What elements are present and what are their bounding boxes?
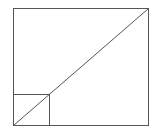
geometry-diagram bbox=[0, 0, 163, 134]
diagonal-line bbox=[14, 9, 149, 126]
